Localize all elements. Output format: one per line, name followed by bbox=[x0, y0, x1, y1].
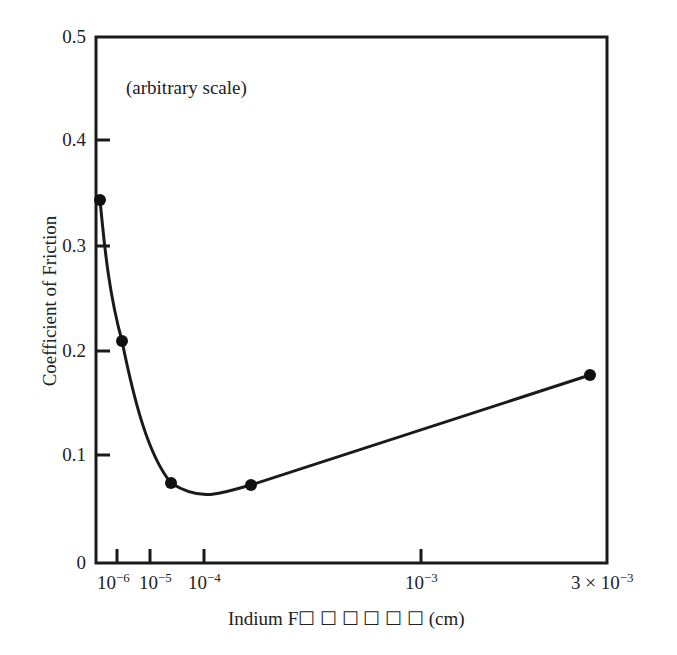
data-point bbox=[94, 194, 106, 206]
x-axis-ticks bbox=[117, 549, 421, 563]
y-tick-label: 0.4 bbox=[46, 129, 86, 151]
data-point bbox=[584, 369, 596, 381]
x-tick-base: 10 bbox=[188, 572, 207, 593]
x-tick-exp: −4 bbox=[207, 570, 221, 585]
friction-curve bbox=[100, 200, 590, 495]
x-tick-label: 10−4 bbox=[188, 570, 221, 594]
x-tick-base: 10 bbox=[97, 572, 116, 593]
x-tick-label: 10−5 bbox=[139, 570, 172, 594]
x-tick-exp: −5 bbox=[158, 570, 172, 585]
x-tick-exp: −3 bbox=[620, 570, 634, 585]
data-point bbox=[165, 477, 177, 489]
data-points bbox=[94, 194, 596, 491]
x-tick-base: 10 bbox=[405, 572, 424, 593]
y-tick-label: 0.5 bbox=[46, 26, 86, 48]
x-axis-label: Indium F☐ ☐ ☐ ☐ ☐ ☐ (cm) bbox=[228, 607, 465, 630]
y-tick-label: 0.1 bbox=[46, 444, 86, 466]
y-tick-label: 0 bbox=[46, 552, 86, 574]
y-axis-ticks bbox=[96, 140, 110, 455]
x-tick-label: 10−3 bbox=[405, 570, 438, 594]
x-tick-label: 10−6 bbox=[97, 570, 130, 594]
x-tick-exp: −6 bbox=[116, 570, 130, 585]
x-tick-exp: −3 bbox=[424, 570, 438, 585]
data-point bbox=[116, 335, 128, 347]
x-tick-base: 3 × 10 bbox=[571, 572, 620, 593]
data-point bbox=[245, 479, 257, 491]
chart-annotation: (arbitrary scale) bbox=[126, 77, 247, 99]
chart-plot bbox=[0, 0, 677, 655]
x-tick-base: 10 bbox=[139, 572, 158, 593]
y-axis-label: Coefficient of Friction bbox=[39, 201, 61, 401]
x-tick-label: 3 × 10−3 bbox=[571, 570, 634, 594]
